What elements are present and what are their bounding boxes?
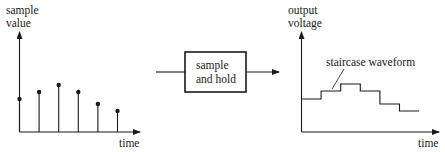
sample-dot [17,97,21,101]
staircase-waveform [302,84,420,111]
block-box [185,52,246,92]
sample-dot [37,90,41,94]
block-label-line1: sample [196,59,229,72]
sample-dot [96,102,100,106]
sample-stems [17,83,119,132]
left-y-label-line1: sample [6,4,39,17]
sample-dot [57,83,61,87]
sample-dot [115,109,119,113]
right-x-label: time [418,137,438,149]
left-y-label-line2: value [6,17,31,29]
right-y-label-line2: voltage [288,17,322,30]
sample-and-hold-diagram: sample value time sample and hold output… [0,0,445,152]
sample-dot [76,90,80,94]
staircase-annotation: staircase waveform [326,56,415,68]
sample-and-hold-block: sample and hold [156,52,279,92]
right-plot: output voltage time staircase waveform [288,4,439,149]
left-plot: sample value time [6,4,140,149]
block-label-line2: and hold [196,73,236,85]
left-x-label: time [119,137,139,149]
right-y-label-line1: output [288,4,318,17]
annotation-leader-line [332,69,344,89]
